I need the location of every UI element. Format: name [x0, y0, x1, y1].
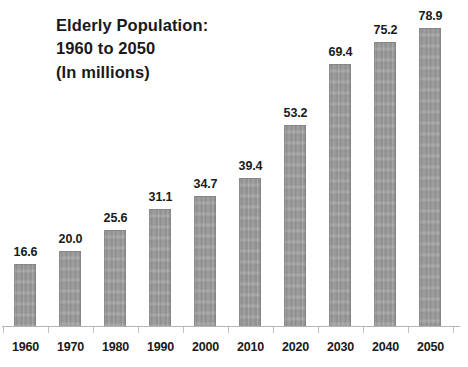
bar [329, 64, 351, 327]
x-axis-label: 2000 [183, 340, 228, 354]
bar-value-label: 78.9 [408, 9, 453, 23]
x-axis-label: 2040 [363, 340, 408, 354]
bar-value-label: 69.4 [318, 45, 363, 59]
x-axis-tick [3, 327, 4, 333]
bar-slot: 25.6 [93, 0, 138, 327]
bar [104, 230, 126, 327]
bar-slot: 78.9 [408, 0, 453, 327]
bar-value-label: 31.1 [138, 190, 183, 204]
x-axis-label: 2050 [408, 340, 453, 354]
bar [194, 196, 216, 327]
bar-value-label: 39.4 [228, 159, 273, 173]
bar-slot: 20.0 [48, 0, 93, 327]
x-axis-tick [273, 327, 274, 333]
bar [374, 42, 396, 327]
plot-area: 16.620.025.631.134.739.453.269.475.278.9 [0, 0, 468, 327]
x-axis-tick [183, 327, 184, 333]
bar-slot: 34.7 [183, 0, 228, 327]
bar [284, 125, 306, 327]
x-axis-tick [48, 327, 49, 333]
x-axis-tick [453, 327, 454, 333]
x-axis-label: 2020 [273, 340, 318, 354]
bar-value-label: 53.2 [273, 106, 318, 120]
bar-slot: 69.4 [318, 0, 363, 327]
bar-value-label: 20.0 [48, 232, 93, 246]
x-axis-label: 1980 [93, 340, 138, 354]
bar-value-label: 75.2 [363, 23, 408, 37]
x-axis-tick [318, 327, 319, 333]
bar-slot: 39.4 [228, 0, 273, 327]
bar [14, 264, 36, 327]
x-axis-label: 1990 [138, 340, 183, 354]
x-axis-label: 2030 [318, 340, 363, 354]
bar [59, 251, 81, 327]
bar-slot: 53.2 [273, 0, 318, 327]
x-axis-tick [408, 327, 409, 333]
x-axis-tick [93, 327, 94, 333]
bar-value-label: 25.6 [93, 211, 138, 225]
bar-chart-figure: Elderly Population: 1960 to 2050 (In mil… [0, 0, 468, 367]
x-axis-tick [138, 327, 139, 333]
x-axis-tick [228, 327, 229, 333]
bar [419, 28, 441, 327]
bar-value-label: 34.7 [183, 177, 228, 191]
bar-slot: 31.1 [138, 0, 183, 327]
bar-slot: 75.2 [363, 0, 408, 327]
bar [239, 178, 261, 327]
bar-slot: 16.6 [3, 0, 48, 327]
x-axis-line [2, 326, 460, 327]
bar [149, 209, 171, 327]
bar-value-label: 16.6 [3, 245, 48, 259]
x-axis-label: 2010 [228, 340, 273, 354]
x-axis-label: 1960 [3, 340, 48, 354]
x-axis-labels: 1960197019801990200020102020203020402050 [0, 340, 468, 362]
x-axis-tick [363, 327, 364, 333]
x-axis-label: 1970 [48, 340, 93, 354]
